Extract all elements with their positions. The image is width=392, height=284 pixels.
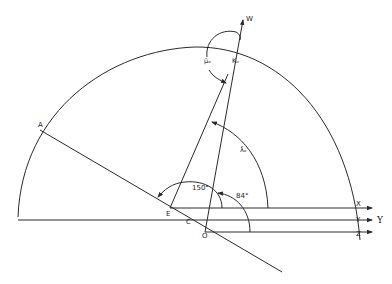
label-E: E	[166, 210, 170, 218]
label-84: 84°	[236, 192, 248, 200]
label-W: W	[246, 15, 253, 23]
label-Y: Y	[355, 216, 361, 224]
label-150: 150°	[192, 184, 209, 192]
diagram-canvas: W μ̄ₒ Kₒ λ̄ₒ 150° 84° A E C O X Y Z Υ	[0, 0, 392, 284]
label-kappa: Kₒ	[232, 57, 239, 65]
label-A: A	[38, 121, 43, 129]
label-C: C	[186, 218, 191, 226]
label-X: X	[356, 200, 361, 208]
label-lambda: λ̄ₒ	[240, 146, 247, 154]
mu-pointer	[209, 70, 226, 83]
label-Y-ref: Υ	[376, 215, 384, 225]
main-arc	[18, 47, 360, 240]
label-Z: Z	[356, 230, 361, 238]
label-O: O	[202, 232, 208, 240]
label-mu: μ̄ₒ	[204, 57, 211, 65]
angle-150-arc	[158, 182, 222, 208]
mu-top-arc	[207, 31, 241, 57]
line-O-W	[205, 20, 243, 232]
